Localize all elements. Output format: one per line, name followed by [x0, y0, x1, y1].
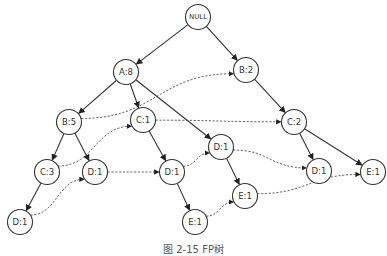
tree-node-null: NULL — [186, 5, 211, 30]
node-label: B:5 — [62, 117, 76, 127]
tree-node-b5: B:5 — [57, 110, 82, 135]
tree-node-d1_r: D:1 — [307, 159, 332, 184]
node-label: D:1 — [214, 142, 229, 152]
node-link — [233, 150, 306, 168]
tree-edge — [52, 133, 64, 160]
node-label: D:1 — [165, 167, 180, 177]
tree-edge — [130, 84, 138, 108]
node-label: C:3 — [40, 167, 54, 177]
node-label: E:1 — [188, 217, 202, 227]
node-label: C:2 — [287, 117, 301, 127]
tree-edge — [79, 80, 117, 113]
tree-node-d1_mid: D:1 — [209, 135, 234, 160]
node-label: D:1 — [13, 217, 28, 227]
tree-edge — [226, 158, 239, 184]
tree-node-c1: C:1 — [131, 108, 156, 133]
node-link — [30, 179, 84, 215]
node-label: NULL — [189, 13, 207, 21]
tree-node-d1_b: D:1 — [83, 160, 108, 185]
node-label: D:1 — [312, 166, 327, 176]
node-link — [206, 202, 233, 216]
tree-node-c3: C:3 — [35, 160, 60, 185]
node-label: C:1 — [136, 115, 150, 125]
tree-nodes-layer: NULLA:8B:2B:5C:1C:2D:1C:3D:1D:1D:1E:1D:1… — [8, 5, 386, 235]
tree-node-e1_r: E:1 — [361, 160, 386, 185]
tree-node-a8: A:8 — [114, 60, 139, 85]
tree-edge — [26, 183, 41, 211]
tree-node-b2: B:2 — [234, 58, 259, 83]
tree-node-d1_c: D:1 — [160, 160, 185, 185]
tree-edge — [75, 133, 89, 160]
tree-node-d1_l: D:1 — [8, 210, 33, 235]
node-label: E:1 — [238, 191, 252, 201]
tree-edge — [254, 79, 285, 112]
node-link — [183, 153, 209, 166]
node-link — [155, 120, 281, 122]
tree-edge — [177, 183, 189, 210]
node-label: B:2 — [239, 65, 253, 75]
node-label: E:1 — [366, 167, 380, 177]
tree-node-c2: C:2 — [282, 110, 307, 135]
tree-node-e1_b: E:1 — [183, 210, 208, 235]
tree-edge — [136, 25, 188, 65]
tree-node-e1_mid: E:1 — [233, 184, 258, 209]
tree-edge — [206, 26, 237, 60]
node-label: A:8 — [119, 67, 133, 77]
node-links-layer — [30, 74, 360, 217]
tree-edge — [300, 133, 313, 159]
node-label: D:1 — [88, 167, 103, 177]
tree-edge — [149, 131, 166, 161]
figure-caption: 图 2-15 FP树 — [0, 241, 387, 256]
